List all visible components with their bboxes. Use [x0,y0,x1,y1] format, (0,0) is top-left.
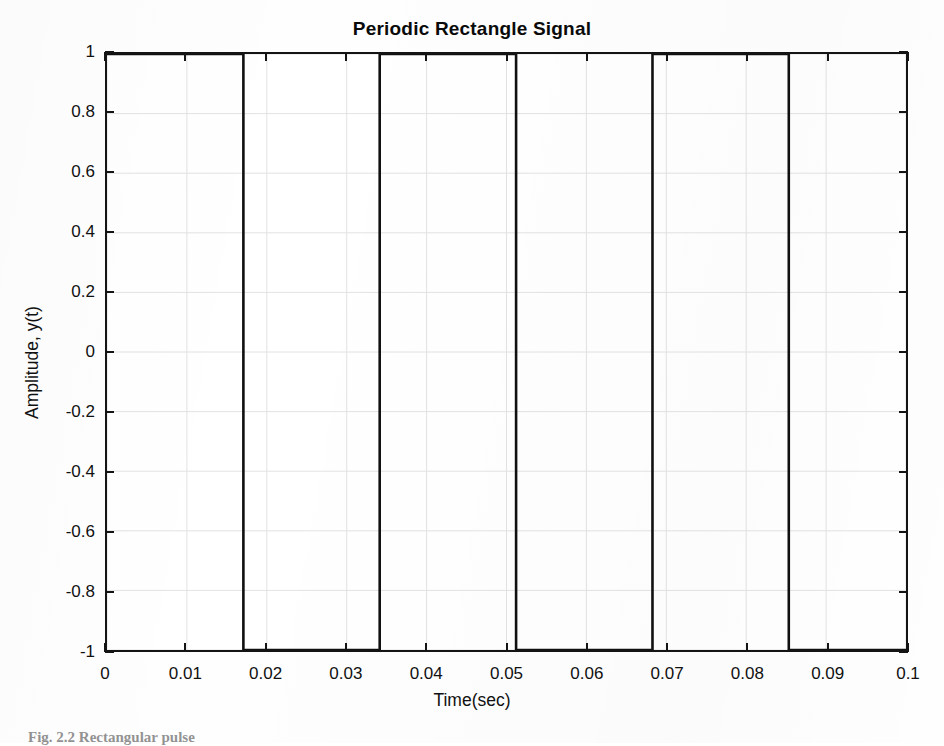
x-tick-mark-top [827,52,829,61]
y-tick-mark [105,171,114,173]
y-tick-mark-right [899,291,908,293]
x-tick-mark-top [265,52,267,61]
y-tick-label: 0.2 [35,282,95,302]
x-tick-mark [265,643,267,652]
y-tick-mark-right [899,471,908,473]
x-tick-label: 0.06 [547,664,627,684]
y-tick-mark-right [899,591,908,593]
x-tick-label: 0 [65,664,145,684]
y-tick-mark-right [899,231,908,233]
y-tick-label: 0.8 [35,102,95,122]
y-axis-title: Amplitude, y(t) [22,253,43,473]
x-tick-mark [586,643,588,652]
figure-caption: Fig. 2.2 Rectangular pulse [28,729,195,746]
y-tick-label: -0.4 [35,462,95,482]
y-tick-mark [105,411,114,413]
y-tick-mark [105,111,114,113]
chart-title: Periodic Rectangle Signal [0,18,944,40]
x-tick-label: 0.1 [868,664,944,684]
y-tick-mark-right [899,111,908,113]
x-tick-label: 0.02 [226,664,306,684]
x-tick-mark-top [746,52,748,61]
y-tick-label: -1 [35,642,95,662]
x-tick-mark [425,643,427,652]
y-tick-label: 0 [35,342,95,362]
x-tick-label: 0.04 [386,664,466,684]
y-tick-mark-right [899,411,908,413]
y-tick-mark [105,471,114,473]
y-tick-mark-right [899,351,908,353]
y-tick-label: 0.6 [35,162,95,182]
y-tick-mark [105,531,114,533]
x-tick-mark [907,643,909,652]
x-tick-label: 0.03 [306,664,386,684]
x-tick-mark-top [586,52,588,61]
x-tick-mark [827,643,829,652]
x-tick-label: 0.01 [145,664,225,684]
x-tick-mark-top [104,52,106,61]
x-tick-mark [184,643,186,652]
y-tick-mark-right [899,171,908,173]
x-tick-mark [104,643,106,652]
y-tick-mark [105,291,114,293]
x-tick-mark [666,643,668,652]
x-tick-label: 0.07 [627,664,707,684]
x-tick-mark-top [666,52,668,61]
x-tick-label: 0.09 [788,664,868,684]
signal-trace [107,54,906,650]
y-tick-mark [105,651,114,653]
y-tick-label: -0.6 [35,522,95,542]
y-tick-mark [105,351,114,353]
y-tick-label: -0.2 [35,402,95,422]
x-tick-label: 0.05 [467,664,547,684]
x-tick-mark [746,643,748,652]
x-axis-title: Time(sec) [0,690,944,711]
x-tick-mark [506,643,508,652]
y-tick-mark [105,51,114,53]
x-tick-mark-top [907,52,909,61]
x-tick-mark [345,643,347,652]
x-tick-mark-top [425,52,427,61]
x-tick-label: 0.08 [707,664,787,684]
x-tick-mark-top [345,52,347,61]
y-tick-label: -0.8 [35,582,95,602]
y-tick-mark [105,591,114,593]
y-tick-label: 0.4 [35,222,95,242]
y-tick-mark [105,231,114,233]
y-tick-mark-right [899,531,908,533]
y-tick-label: 1 [35,42,95,62]
plot-area[interactable] [105,52,908,652]
x-tick-mark-top [184,52,186,61]
x-tick-mark-top [506,52,508,61]
